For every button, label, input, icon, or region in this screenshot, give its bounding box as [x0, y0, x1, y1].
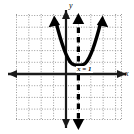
y-axis-arrow-up — [62, 10, 70, 19]
x-axis-label: x — [125, 70, 129, 78]
y-axis-label: y — [69, 2, 73, 10]
x-axis-arrow-left — [8, 70, 17, 78]
symmetry-arrow-up — [73, 13, 85, 24]
grid-horizontal-lines — [16, 16, 122, 120]
grid-vertical-lines — [17, 14, 122, 120]
graph-figure: x y x = 1 — [0, 0, 134, 134]
symmetry-arrow-down — [73, 119, 85, 130]
coordinate-plane-svg — [0, 0, 134, 134]
axis-of-symmetry-label: x = 1 — [76, 66, 93, 73]
y-axis-arrow-down — [62, 119, 70, 128]
